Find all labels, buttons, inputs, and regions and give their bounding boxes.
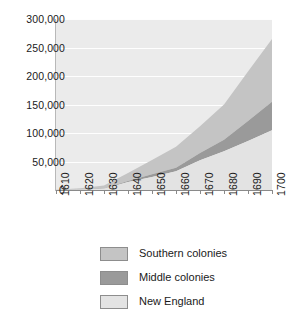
x-axis-tick [272,190,273,194]
legend-item: Middle colonies [100,269,280,286]
x-axis-label: 1630 [108,172,119,196]
y-axis-label: 250,000 [26,43,65,54]
x-axis-tick [224,190,225,194]
y-axis-label: 300,000 [26,14,65,25]
x-axis-tick [248,190,249,194]
x-axis-label: 1650 [156,172,167,196]
x-axis-tick [128,190,129,194]
y-axis-label: 50,000 [32,157,65,168]
x-axis-tick [80,190,81,194]
x-axis-label: 1690 [252,172,263,196]
chart-legend: Southern coloniesMiddle coloniesNew Engl… [100,245,280,315]
legend-swatch [100,271,128,285]
x-axis-tick [104,190,105,194]
legend-item: Southern colonies [100,245,280,262]
plot-area [56,19,272,190]
x-axis-tick [56,190,57,194]
legend-label: Middle colonies [139,272,215,283]
y-axis-label: 100,000 [26,128,65,139]
x-axis-label: 1640 [132,172,143,196]
stacked-area-series [56,19,272,190]
x-axis-label: 1660 [180,172,191,196]
x-axis-label: 1610 [60,172,71,196]
y-axis-label: 200,000 [26,71,65,82]
legend-item: New England [100,293,280,310]
x-axis-label: 1620 [84,172,95,196]
legend-swatch [100,247,128,261]
y-axis-label: 150,000 [26,100,65,111]
x-axis-label: 1700 [276,172,287,196]
legend-label: New England [139,296,204,307]
x-axis-tick [200,190,201,194]
population-area-chart: 050,000100,000150,000200,000250,000300,0… [0,0,287,236]
x-axis-label: 1680 [228,172,239,196]
legend-swatch [100,295,128,309]
x-axis-label: 1670 [204,172,215,196]
x-axis-tick [152,190,153,194]
legend-label: Southern colonies [139,248,227,259]
x-axis-tick [176,190,177,194]
